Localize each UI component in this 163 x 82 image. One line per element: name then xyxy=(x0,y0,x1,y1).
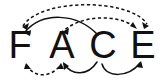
letter-c: C xyxy=(89,24,116,66)
face-diagram-figure: F A C E xyxy=(0,0,163,82)
letter-a: A xyxy=(49,24,75,66)
letter-e: E xyxy=(130,24,155,66)
face-diagram-canvas: F A C E xyxy=(0,0,163,82)
letter-f: F xyxy=(8,24,31,66)
arc-dashed-bottom-path xyxy=(27,65,60,75)
